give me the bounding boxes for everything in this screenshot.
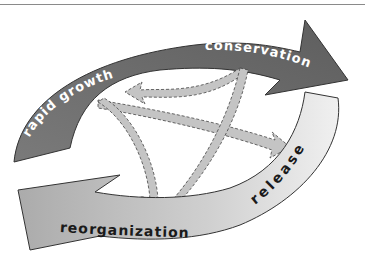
adaptive-cycle-diagram: rapid growth conservation reorganization…	[0, 0, 365, 260]
